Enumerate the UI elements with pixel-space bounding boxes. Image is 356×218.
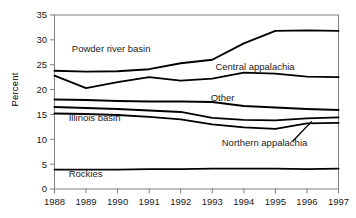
y-tick-label: 25 — [36, 59, 47, 70]
series-label-rockies: Rockies — [69, 168, 103, 179]
series-label-central-appalachia: Central appalachia — [215, 61, 295, 72]
x-tick-label: 1996 — [296, 196, 317, 207]
y-tick-label: 0 — [42, 183, 47, 194]
x-tick-label: 1990 — [107, 196, 128, 207]
y-tick-label: 5 — [42, 159, 47, 170]
x-tick-label: 1994 — [233, 196, 254, 207]
series-label-other: Other — [211, 92, 235, 103]
series-label-illinois-basin: Illinois basin — [69, 112, 121, 123]
x-tick-label: 1991 — [139, 196, 160, 207]
x-tick-label: 1992 — [170, 196, 191, 207]
series-label-northern-appalachia: Northern appalachia — [222, 137, 308, 148]
chart-figure: Percent 05101520253035198819891990199119… — [0, 0, 356, 218]
x-tick-label: 1988 — [44, 196, 65, 207]
x-tick-label: 1997 — [328, 196, 349, 207]
y-tick-label: 35 — [36, 9, 47, 20]
y-tick-label: 20 — [36, 84, 47, 95]
x-tick-label: 1989 — [75, 196, 96, 207]
x-tick-label: 1993 — [202, 196, 223, 207]
y-tick-label: 30 — [36, 34, 47, 45]
series-label-powder-river-basin: Powder river basin — [72, 43, 151, 54]
series-line-central-appalachia — [55, 73, 339, 88]
x-tick-label: 1995 — [265, 196, 286, 207]
y-tick-label: 15 — [36, 109, 47, 120]
line-chart-plot: 0510152025303519881989199019911992199319… — [0, 0, 356, 218]
y-tick-label: 10 — [36, 134, 47, 145]
